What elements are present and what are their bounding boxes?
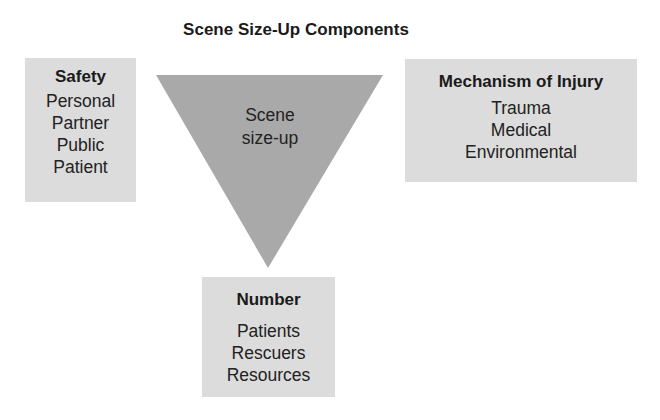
- safety-item: Public: [25, 134, 136, 156]
- number-item: Resources: [202, 364, 335, 386]
- number-item: Patients: [202, 320, 335, 342]
- mechanism-item: Environmental: [405, 141, 637, 163]
- mechanism-of-injury-box: Mechanism of Injury Trauma Medical Envir…: [405, 59, 637, 182]
- triangle-label-line2: size-up: [220, 127, 320, 150]
- safety-heading: Safety: [25, 66, 136, 88]
- safety-item: Partner: [25, 112, 136, 134]
- triangle-label-line1: Scene: [220, 104, 320, 127]
- number-item: Rescuers: [202, 342, 335, 364]
- mechanism-item: Trauma: [405, 97, 637, 119]
- number-heading: Number: [202, 289, 335, 311]
- number-box: Number Patients Rescuers Resources: [202, 277, 335, 397]
- safety-item: Personal: [25, 90, 136, 112]
- triangle-label: Scene size-up: [220, 104, 320, 150]
- mechanism-item: Medical: [405, 119, 637, 141]
- mechanism-heading: Mechanism of Injury: [405, 71, 637, 93]
- safety-item: Patient: [25, 156, 136, 178]
- safety-box: Safety Personal Partner Public Patient: [25, 58, 136, 202]
